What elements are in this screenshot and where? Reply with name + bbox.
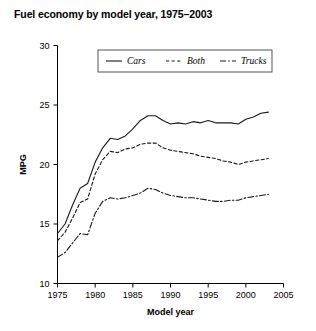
- x-tick-label: 1985: [123, 290, 143, 300]
- x-tick-label: 1990: [160, 290, 180, 300]
- y-tick-label: 10: [39, 279, 49, 289]
- legend-label-trucks: Trucks: [241, 56, 267, 66]
- x-tick-label: 1980: [85, 290, 105, 300]
- x-tick-label: 2000: [236, 290, 256, 300]
- chart-legend: CarsBothTrucks: [98, 50, 272, 72]
- y-tick-label: 20: [39, 160, 49, 170]
- y-tick-label: 25: [39, 100, 49, 110]
- series-line-trucks: [58, 188, 269, 257]
- y-tick-label: 30: [39, 41, 49, 51]
- series-line-both: [58, 143, 269, 241]
- x-tick-label: 1975: [47, 290, 67, 300]
- chart-plot-area: 1015202530 1975198019851990199520002005 …: [0, 0, 316, 331]
- x-tick-label: 1995: [198, 290, 218, 300]
- chart-series-group: [58, 112, 269, 257]
- x-axis-title: Model year: [147, 307, 195, 317]
- legend-label-cars: Cars: [127, 56, 146, 66]
- x-tick-label: 2005: [273, 290, 293, 300]
- y-axis: 1015202530: [39, 41, 57, 289]
- legend-label-both: Both: [187, 56, 205, 66]
- chart-svg: 1015202530 1975198019851990199520002005 …: [0, 0, 316, 331]
- series-line-cars: [58, 112, 269, 233]
- y-axis-title: MPG: [18, 154, 28, 175]
- x-axis: 1975198019851990199520002005: [47, 284, 293, 300]
- y-tick-label: 15: [39, 219, 49, 229]
